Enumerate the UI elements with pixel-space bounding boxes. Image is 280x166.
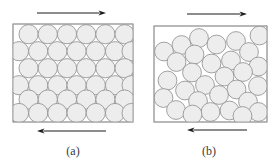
particle-disc bbox=[167, 101, 186, 120]
particle-disc bbox=[29, 42, 48, 61]
particle-disc bbox=[115, 25, 134, 44]
panel-caption-a: (a) bbox=[66, 144, 79, 158]
particle-disc bbox=[96, 59, 115, 78]
particle-disc bbox=[48, 103, 67, 122]
particle-disc bbox=[250, 26, 269, 45]
particle-disc bbox=[77, 25, 96, 44]
particle-disc bbox=[19, 25, 38, 44]
particle-group bbox=[9, 25, 141, 123]
particle-disc bbox=[207, 35, 226, 54]
particle-disc bbox=[86, 103, 105, 122]
particle-disc bbox=[29, 103, 48, 122]
particle-disc bbox=[183, 105, 202, 124]
particle-disc bbox=[190, 29, 209, 48]
particle-disc bbox=[38, 25, 57, 44]
particle-disc bbox=[185, 45, 204, 64]
particle-disc bbox=[57, 25, 76, 44]
particle-disc bbox=[158, 71, 177, 90]
particle-disc bbox=[67, 42, 86, 61]
particle-disc bbox=[57, 59, 76, 78]
shear-packing-figure: (a)(b) bbox=[0, 0, 280, 166]
particle-disc bbox=[67, 103, 86, 122]
particle-disc bbox=[201, 103, 220, 122]
particle-disc bbox=[19, 59, 38, 78]
particle-disc bbox=[86, 42, 105, 61]
particle-disc bbox=[115, 59, 134, 78]
particle-disc bbox=[48, 42, 67, 61]
figure-root: (a)(b) bbox=[0, 0, 280, 166]
particle-disc bbox=[77, 59, 96, 78]
particle-disc bbox=[38, 59, 57, 78]
particle-disc bbox=[96, 25, 115, 44]
particle-disc bbox=[234, 63, 253, 82]
panel-caption-b: (b) bbox=[202, 144, 216, 158]
